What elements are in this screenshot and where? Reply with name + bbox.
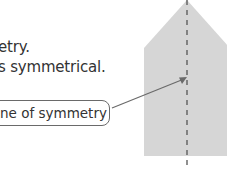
symmetry-figure [0,0,227,179]
callout-box: ne of symmetry [0,100,110,126]
callout-label: ne of symmetry [0,105,107,121]
